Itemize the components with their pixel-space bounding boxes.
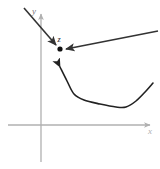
point-z-dot [57, 46, 62, 51]
figure-canvas: z y x [0, 0, 160, 169]
y-axis-label: y [31, 6, 36, 16]
x-axis-label: x [147, 126, 152, 136]
diagram-svg: z y x [0, 0, 160, 169]
point-z-label: z [56, 35, 61, 44]
valley-curve [60, 67, 153, 108]
right-arrow [66, 31, 158, 49]
upper-left-arrow [24, 8, 56, 45]
